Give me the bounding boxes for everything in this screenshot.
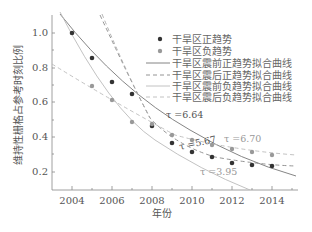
- chart: 1.0 0.8 0.6 0.4 0.2 2004 2006 2008 2010 …: [0, 0, 312, 232]
- y-axis-label: 维持性栅格占参考时刻比例: [12, 45, 24, 165]
- annotation-tau-pre-positive: τ =6.64: [166, 109, 203, 120]
- legend-label: 干旱区震前负趋势拟合曲线: [172, 80, 292, 92]
- x-ticks: [72, 186, 292, 190]
- y-tick-labels: 1.0 0.8 0.6 0.4 0.2: [32, 27, 48, 177]
- x-axis-label: 年份: [152, 207, 172, 219]
- legend-label: 干旱区震后负趋势拟合曲线: [172, 91, 292, 103]
- y-tick-label: 0.2: [32, 166, 48, 177]
- y-ticks: [52, 33, 55, 172]
- x-tick-label: 2008: [139, 195, 164, 206]
- y-tick-label: 0.8: [32, 62, 48, 73]
- legend-label: 干旱区震前正趋势拟合曲线: [172, 57, 292, 69]
- y-tick-label: 0.6: [32, 96, 48, 107]
- fit-post-positive-upper: [102, 14, 150, 118]
- x-tick-label: 2006: [99, 195, 124, 206]
- annotation-tau-pre-negative: τ =3.95: [200, 166, 237, 177]
- legend-label: 干旱区负趋势: [172, 45, 232, 57]
- y-tick-label: 0.4: [32, 131, 48, 142]
- x-tick-label: 2010: [179, 195, 204, 206]
- legend-marker-dark: [158, 37, 162, 41]
- y-tick-label: 1.0: [32, 27, 48, 38]
- legend-label: 干旱区震后正趋势拟合曲线: [172, 69, 292, 81]
- x-tick-label: 2004: [59, 195, 84, 206]
- legend-marker-gray: [158, 49, 162, 53]
- annotation-tau-post-negative: τ =6.70: [224, 133, 261, 144]
- legend-label: 干旱区正趋势: [172, 33, 232, 45]
- annotations: τ =6.64 τ =5.67 τ =3.95 τ =6.70: [166, 109, 261, 177]
- annotation-tau-post-positive: τ =5.67: [178, 133, 217, 152]
- x-tick-label: 2012: [219, 195, 244, 206]
- legend: 干旱区正趋势 干旱区负趋势 干旱区震前正趋势拟合曲线 干旱区震后正趋势拟合曲线 …: [146, 33, 292, 103]
- x-tick-labels: 2004 2006 2008 2010 2012 2014: [59, 195, 284, 206]
- x-tick-label: 2014: [259, 195, 284, 206]
